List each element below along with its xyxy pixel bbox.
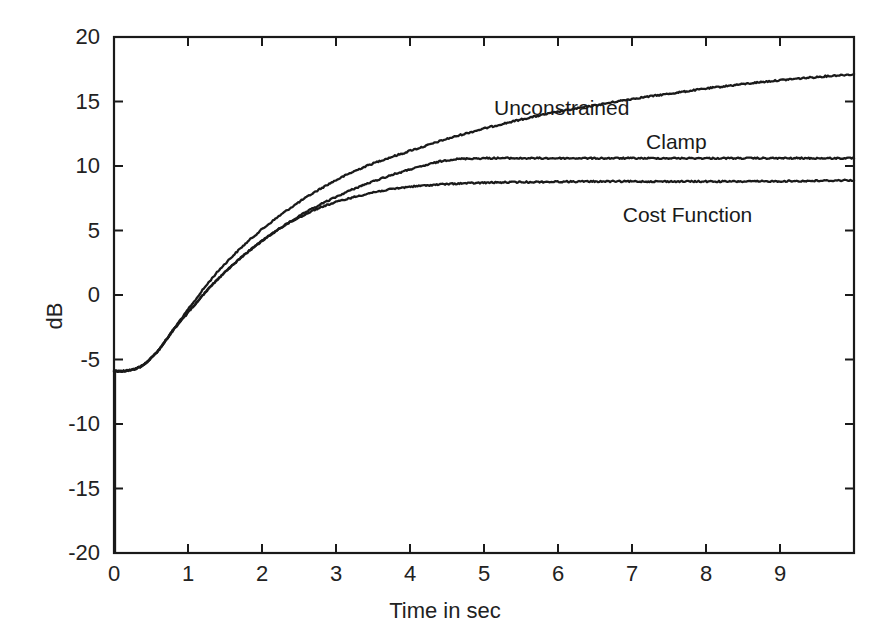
axis-ticks [114, 37, 854, 553]
curve-label-clamp: Clamp [646, 131, 707, 152]
y-tick-label: -20 [0, 542, 100, 564]
axes-box [114, 37, 854, 553]
y-tick-label: 0 [0, 284, 100, 306]
x-tick-label: 7 [626, 563, 638, 585]
x-tick-label: 6 [552, 563, 564, 585]
x-tick-label: 0 [108, 563, 120, 585]
x-tick-label: 1 [182, 563, 194, 585]
y-tick-label: -15 [0, 478, 100, 500]
x-tick-label: 9 [774, 563, 786, 585]
x-tick-label: 5 [478, 563, 490, 585]
axes-frame [114, 37, 854, 553]
y-tick-label: -5 [0, 349, 100, 371]
x-tick-label: 4 [404, 563, 416, 585]
y-tick-label: 15 [0, 91, 100, 113]
y-axis-title: dB [44, 303, 66, 330]
y-tick-label: 10 [0, 155, 100, 177]
x-axis-title: Time in sec [389, 600, 501, 622]
data-curves [114, 74, 854, 553]
x-tick-label: 8 [700, 563, 712, 585]
y-tick-label: -10 [0, 413, 100, 435]
y-tick-label: 20 [0, 26, 100, 48]
x-tick-label: 2 [256, 563, 268, 585]
y-tick-label: 5 [0, 220, 100, 242]
x-tick-label: 3 [330, 563, 342, 585]
curve-label-unconstrained: Unconstrained [494, 96, 629, 117]
chart-figure: Time in sec dB 0123456789 -20-15-10-5051… [0, 0, 890, 630]
plot-canvas [0, 0, 890, 630]
curve-label-cost-function: Cost Function [623, 203, 753, 224]
